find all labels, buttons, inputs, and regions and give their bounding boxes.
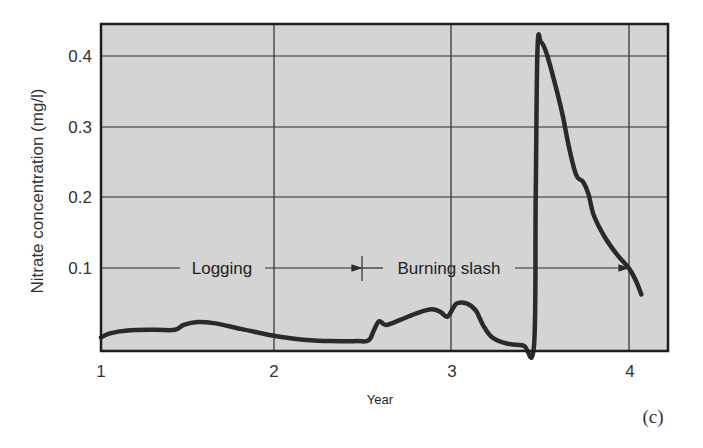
x-tick-4: 4 (625, 362, 634, 381)
annotation-logging: Logging (192, 259, 253, 278)
y-tick-0.3: 0.3 (68, 118, 92, 137)
x-tick-2: 2 (269, 362, 278, 381)
y-tick-0.4: 0.4 (68, 47, 92, 66)
x-axis-label: Year (367, 392, 394, 407)
x-tick-1: 1 (96, 362, 105, 381)
y-axis-label: Nitrate concentration (mg/l) (28, 88, 47, 293)
x-tick-3: 3 (447, 362, 456, 381)
y-tick-0.2: 0.2 (68, 188, 92, 207)
nitrate-chart: Logging Burning slash 0.4 0.3 0.2 0.1 1 … (0, 0, 703, 448)
y-tick-0.1: 0.1 (68, 259, 92, 278)
plot-background (101, 24, 668, 351)
panel-label: (c) (642, 406, 663, 428)
annotation-burning-slash: Burning slash (397, 259, 500, 278)
